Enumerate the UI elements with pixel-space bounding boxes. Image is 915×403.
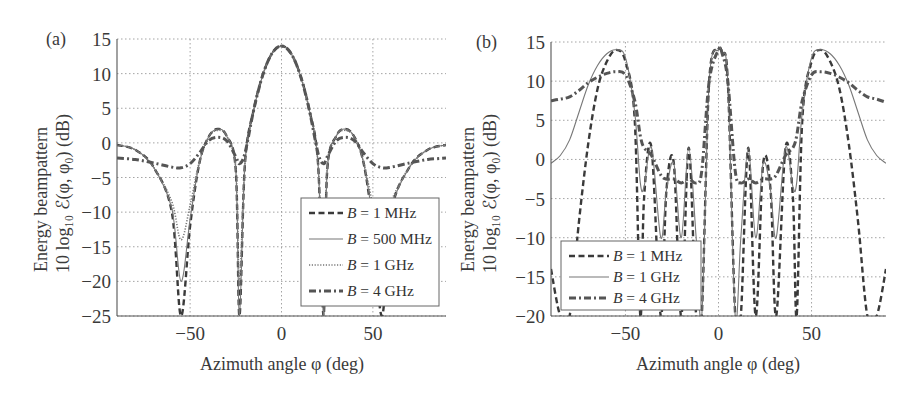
panel-a-ylabel-line2: 10 log₁₀ ℰ(φ, φ₀) (dB)	[53, 114, 74, 273]
x-tick-label: 50	[363, 323, 382, 344]
x-tick-label: −50	[611, 323, 641, 344]
legend-entry-label: B = 4 GHz	[613, 289, 680, 306]
figure-canvas: (a) 151050−5−10−15−20−25−50050 Energy be…	[0, 0, 915, 403]
panel-b-legend: B = 1 MHzB = 1 GHzB = 4 GHz	[561, 241, 701, 310]
y-tick-label: 10	[92, 64, 111, 85]
legend-entry-label: B = 1 GHz	[347, 256, 414, 273]
x-tick-label: 0	[714, 323, 724, 344]
panel-a-xlabel: Azimuth angle φ (deg)	[200, 354, 364, 375]
y-tick-label: 5	[536, 110, 546, 131]
y-tick-label: 5	[102, 98, 112, 119]
y-tick-label: −10	[81, 202, 111, 223]
legend-entry-label: B = 1 MHz	[347, 204, 417, 221]
y-tick-label: −25	[81, 306, 111, 327]
panel-b-ylabel-line2: 10 log₁₀ ℰ(φ, φ₀) (dB)	[480, 114, 501, 273]
panel-b-ylabel-line1: Energy beampattern	[458, 127, 478, 272]
panel-a-legend: B = 1 MHzB = 500 MHzB = 1 GHzB = 4 GHz	[301, 198, 439, 306]
legend-entry-label: B = 1 GHz	[613, 268, 680, 285]
legend-entry-label: B = 4 GHz	[347, 282, 414, 299]
y-tick-label: −15	[515, 267, 545, 288]
panel-b-tag: (b)	[476, 32, 497, 53]
panel-b-xlabel: Azimuth angle φ (deg)	[636, 354, 800, 375]
x-tick-label: 50	[802, 323, 821, 344]
y-tick-label: −20	[515, 306, 545, 327]
panel-a: (a) 151050−5−10−15−20−25−50050 Energy be…	[31, 29, 446, 375]
panel-b: (b) 151050−5−10−15−20−50050 Energy beamp…	[458, 32, 886, 375]
y-tick-label: −10	[515, 228, 545, 249]
y-tick-label: 10	[526, 71, 545, 92]
panel-a-ylabel-line1: Energy beampattern	[31, 127, 51, 272]
legend-entry-label: B = 500 MHz	[347, 230, 432, 247]
legend-entry-label: B = 1 MHz	[613, 247, 683, 264]
y-tick-label: 15	[92, 29, 111, 50]
y-tick-label: −5	[91, 168, 111, 189]
x-tick-label: 0	[277, 323, 287, 344]
y-tick-label: 15	[526, 32, 545, 53]
y-tick-label: −15	[81, 237, 111, 258]
y-tick-label: 0	[102, 133, 112, 154]
x-tick-label: −50	[175, 323, 205, 344]
panel-a-tag: (a)	[46, 29, 66, 50]
y-tick-label: −20	[81, 271, 111, 292]
y-tick-label: −5	[525, 189, 545, 210]
y-tick-label: 0	[536, 149, 546, 170]
